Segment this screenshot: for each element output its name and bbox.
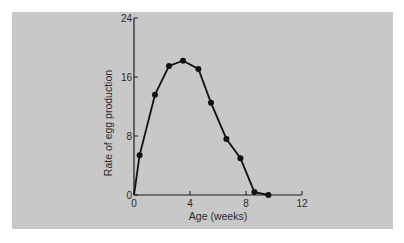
data-point-marker [195, 66, 201, 72]
data-point-marker [223, 136, 229, 142]
data-point-marker [208, 100, 214, 106]
y-tick-label: 24 [121, 13, 133, 24]
y-tick-label: 16 [121, 72, 133, 83]
data-point-marker [152, 92, 158, 98]
x-axis-label: Age (weeks) [189, 210, 247, 222]
y-axis-label: Rate of egg production [102, 70, 114, 176]
data-point-marker [237, 155, 243, 161]
line-chart: 08162404812 Age (weeks) Rate of egg prod… [0, 0, 404, 243]
x-tick-label: 12 [296, 198, 308, 209]
data-point-marker [180, 58, 186, 64]
y-tick-label: 8 [126, 131, 132, 142]
data-point-marker [137, 152, 143, 158]
plot-area [134, 58, 271, 198]
data-point-marker [166, 63, 172, 69]
x-tick-label: 8 [243, 198, 249, 209]
series-line [134, 61, 268, 195]
x-tick-label: 0 [131, 198, 137, 209]
data-point-marker [265, 192, 271, 198]
data-point-marker [251, 189, 257, 195]
x-tick-label: 4 [187, 198, 193, 209]
